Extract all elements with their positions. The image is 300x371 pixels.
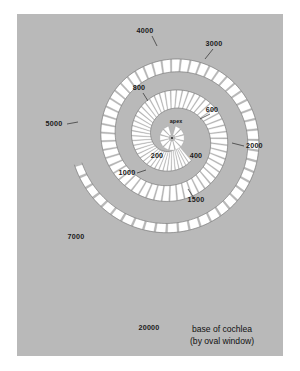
frequency-label: 600 bbox=[206, 105, 219, 114]
cochlea-segment bbox=[122, 214, 135, 226]
cochlea-segment bbox=[101, 133, 116, 140]
cochlea-segment bbox=[94, 194, 107, 206]
frequency-label: 2000 bbox=[246, 141, 263, 150]
frequency-label: 5000 bbox=[46, 119, 63, 128]
frequency-label: 1000 bbox=[119, 168, 136, 177]
frequency-label: 20000 bbox=[139, 323, 160, 332]
leader-line bbox=[232, 143, 244, 146]
cochlea-segment bbox=[162, 59, 170, 73]
apex-label: apex bbox=[170, 118, 182, 124]
cochlea-segment bbox=[245, 120, 258, 130]
cochlea-tonotopic-figure: 4000300020001500100080060040020050007000… bbox=[0, 0, 300, 371]
cochlea-segment bbox=[156, 223, 166, 233]
cochlea-segment bbox=[167, 223, 177, 233]
frequency-label: 800 bbox=[133, 83, 146, 92]
cochlea-segment bbox=[247, 150, 259, 161]
cochlea-spiral-svg: 4000300020001500100080060040020050007000… bbox=[0, 0, 300, 371]
figure-canvas: 4000300020001500100080060040020050007000… bbox=[0, 0, 300, 371]
frequency-label: 400 bbox=[190, 151, 203, 160]
cochlea-segment bbox=[209, 132, 227, 138]
frequency-label: 200 bbox=[151, 151, 164, 160]
cochlea-segment bbox=[101, 124, 116, 133]
cochlea-segment bbox=[247, 130, 259, 139]
cochlea-segment bbox=[112, 208, 125, 220]
frequency-label-group: 4000300020001500100080060040020050007000… bbox=[46, 26, 263, 332]
cochlea-segment bbox=[132, 136, 152, 140]
cochlea-segment bbox=[133, 218, 145, 229]
leader-line bbox=[205, 49, 213, 59]
leader-line bbox=[143, 93, 148, 101]
cochlea-segment bbox=[102, 202, 115, 214]
frequency-label: 1500 bbox=[188, 195, 205, 204]
leader-line bbox=[152, 36, 157, 46]
cochlea-segment bbox=[198, 213, 210, 226]
caption-line-1: base of cochlea bbox=[192, 324, 252, 334]
cochlea-segment bbox=[75, 164, 86, 176]
cochlea-segment bbox=[189, 218, 200, 230]
frequency-label: 3000 bbox=[206, 39, 223, 48]
cochlea-segment bbox=[86, 185, 99, 197]
cochlea-segment bbox=[101, 141, 117, 149]
cochlea-segment bbox=[153, 61, 163, 76]
frequency-label: 4000 bbox=[137, 26, 154, 35]
cochlea-segment bbox=[180, 59, 190, 72]
leader-line bbox=[67, 122, 78, 124]
frequency-label: 7000 bbox=[68, 232, 85, 241]
leader-line bbox=[137, 170, 146, 173]
spiral-center-dot bbox=[171, 137, 173, 139]
cochlea-segment bbox=[172, 59, 180, 72]
cochlea-segment bbox=[170, 185, 176, 202]
caption-line-2: (by oval window) bbox=[190, 336, 254, 346]
